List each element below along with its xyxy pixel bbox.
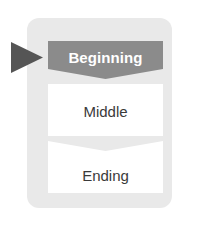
stage-label-beginning: Beginning <box>48 50 163 65</box>
stage-item-middle[interactable]: Middle <box>48 84 163 136</box>
triangle-right-icon <box>10 41 44 74</box>
stage-item-ending[interactable]: Ending <box>48 141 163 193</box>
stage-label-middle: Middle <box>48 104 163 119</box>
stage-label-ending: Ending <box>48 168 163 183</box>
process-diagram: Beginning Middle Ending <box>0 0 197 226</box>
stage-item-beginning[interactable]: Beginning <box>48 41 163 79</box>
stage-list: Beginning Middle Ending <box>48 41 163 193</box>
